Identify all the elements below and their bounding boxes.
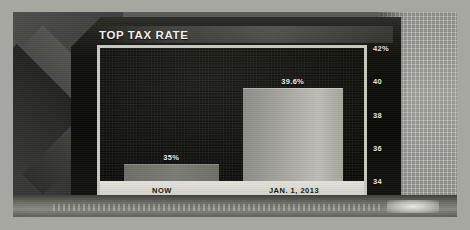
chart-plot-frame: 35% 39.6% NOW JAN. 1, 2013 xyxy=(97,45,367,201)
studio-desk-band xyxy=(13,195,457,217)
bar-jan-1-2013: 39.6% xyxy=(243,88,343,181)
bar-now: 35% xyxy=(124,164,219,181)
page-title: TOP TAX RATE xyxy=(99,29,188,41)
y-axis-tick-label: 36 xyxy=(373,143,382,152)
category-label-jan-1-2013: JAN. 1, 2013 xyxy=(224,186,364,195)
screenshot-stage: TOP TAX RATE 35% 39.6% NOW JAN. 1, 2013 … xyxy=(0,0,470,230)
chart-plot-area: 35% 39.6% NOW JAN. 1, 2013 xyxy=(100,48,364,198)
desk-texture xyxy=(53,204,383,211)
desk-highlight xyxy=(387,200,439,213)
y-axis-tick-label: 38 xyxy=(373,110,382,119)
category-label-now: NOW xyxy=(100,186,224,195)
y-axis-tick-label: 34 xyxy=(373,177,382,186)
y-axis-tick-label: 40 xyxy=(373,77,382,86)
y-axis-ticks: 3436384042% xyxy=(371,45,401,201)
tv-screen: TOP TAX RATE 35% 39.6% NOW JAN. 1, 2013 … xyxy=(13,12,457,217)
bar-value-label: 39.6% xyxy=(243,77,343,86)
y-axis-tick-label: 42% xyxy=(373,44,389,53)
bar-value-label: 35% xyxy=(124,153,219,162)
